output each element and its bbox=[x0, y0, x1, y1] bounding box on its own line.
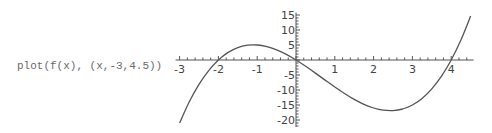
x-tick-label: 1 bbox=[331, 63, 338, 76]
y-tick-label: -20 bbox=[277, 114, 295, 127]
y-tick-label: 10 bbox=[281, 24, 295, 37]
x-tick-label: 3 bbox=[409, 63, 416, 76]
x-tick-label: -2 bbox=[213, 63, 224, 76]
x-tick-label: -1 bbox=[252, 63, 263, 76]
function-plot: -3-2-1123415105-5-10-15-20 bbox=[0, 0, 492, 133]
y-tick-label: -15 bbox=[277, 99, 295, 112]
x-tick-label: -3 bbox=[174, 63, 185, 76]
x-tick-label: 2 bbox=[370, 63, 377, 76]
tick-labels: -3-2-1123415105-5-10-15-20 bbox=[174, 9, 455, 127]
y-tick-label: 15 bbox=[281, 9, 295, 22]
y-tick-label: -5 bbox=[284, 69, 295, 82]
y-tick-label: 5 bbox=[288, 39, 295, 52]
y-tick-label: -10 bbox=[277, 84, 295, 97]
